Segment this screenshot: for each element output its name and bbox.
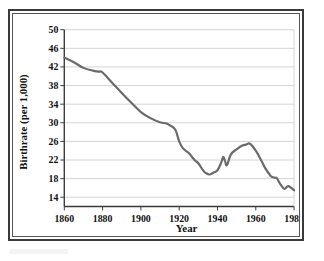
y-axis-title: Birthrate (per 1,000) xyxy=(17,74,30,170)
y-tick-label: 22 xyxy=(49,154,59,165)
birthrate-line-chart: 14182226303438424650 1860188019001920194… xyxy=(13,14,299,236)
x-tick-label: 1960 xyxy=(246,213,266,224)
y-tick-label: 50 xyxy=(49,24,59,35)
scan-artifact xyxy=(10,249,68,254)
x-tick-label: 1980 xyxy=(284,213,299,224)
y-tick-label: 30 xyxy=(49,117,59,128)
x-axis-title: Year xyxy=(176,222,198,234)
y-tick-label: 14 xyxy=(49,192,59,203)
y-tick-label: 26 xyxy=(49,136,59,147)
figure-frame-inner: 14182226303438424650 1860188019001920194… xyxy=(12,13,300,237)
figure-frame: 14182226303438424650 1860188019001920194… xyxy=(8,9,304,241)
x-tick-label: 1940 xyxy=(208,213,228,224)
y-tick-label: 46 xyxy=(49,43,59,54)
x-tick-label: 1900 xyxy=(131,213,151,224)
x-tick-label: 1860 xyxy=(54,213,74,224)
y-tick-label: 42 xyxy=(49,61,59,72)
y-tick-label: 34 xyxy=(49,99,59,110)
y-tick-label: 18 xyxy=(49,173,59,184)
x-tick-label: 1880 xyxy=(93,213,113,224)
y-tick-label: 38 xyxy=(49,80,59,91)
